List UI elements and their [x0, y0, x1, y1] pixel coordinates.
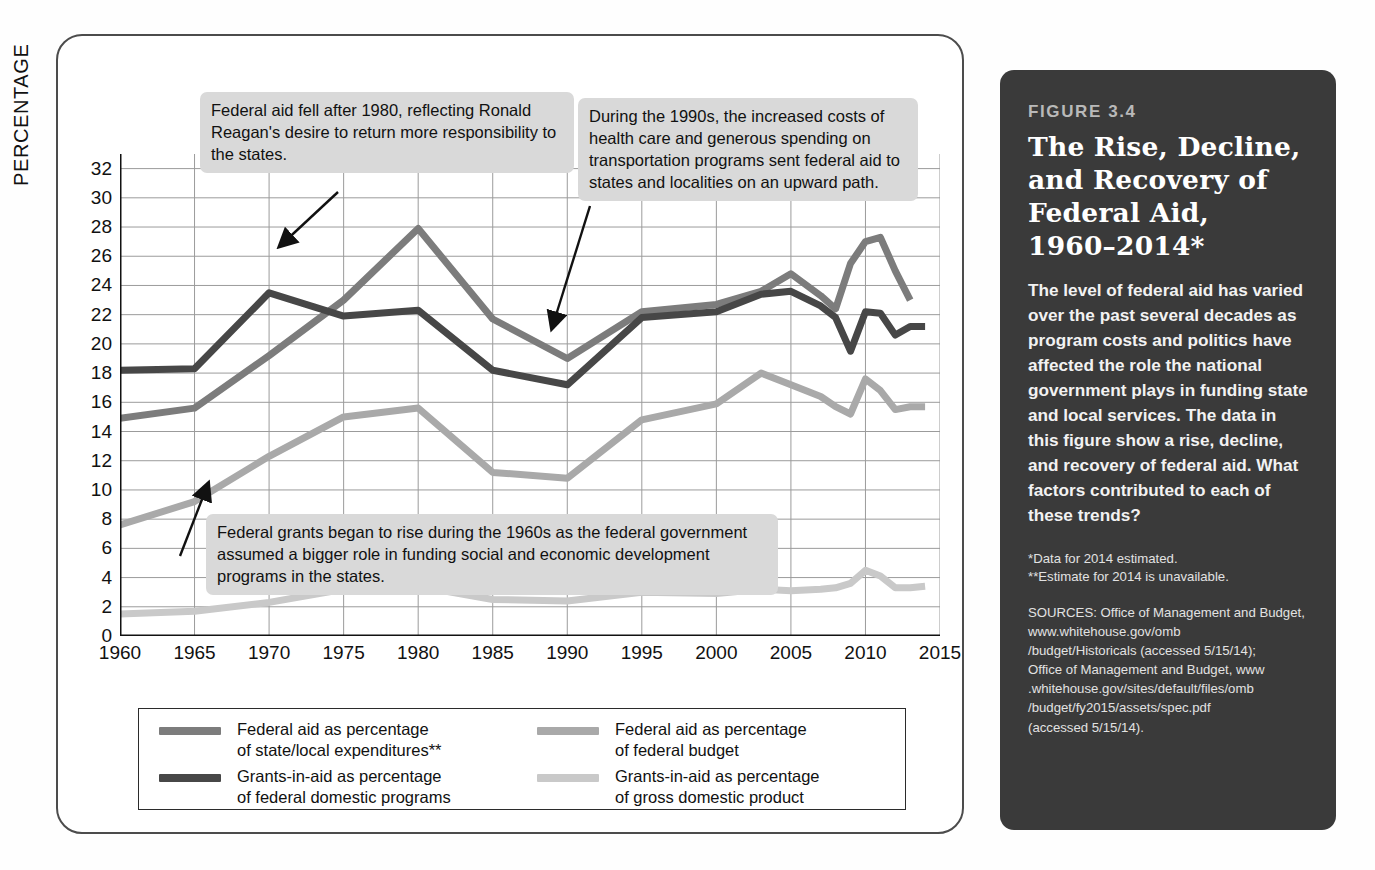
- legend-column-right: Federal aid as percentage of federal bud…: [517, 719, 901, 813]
- x-tick-label: 1980: [397, 642, 439, 664]
- chart-panel: PERCENTAGE 02468101214161820222426283032: [56, 34, 964, 834]
- y-tick-label: 24: [72, 275, 112, 294]
- y-tick-label: 2: [72, 597, 112, 616]
- legend-swatch: [159, 727, 221, 735]
- y-tick-label: 14: [72, 422, 112, 441]
- y-tick-label: 20: [72, 334, 112, 353]
- arrow-1960s: [180, 484, 208, 556]
- x-tick-label: 2000: [695, 642, 737, 664]
- chart-legend: Federal aid as percentage of state/local…: [138, 708, 906, 810]
- callout-reagan: Federal aid fell after 1980, reflecting …: [200, 92, 574, 173]
- legend-swatch: [537, 727, 599, 735]
- arrow-1990s: [552, 206, 590, 328]
- series-line: [120, 373, 925, 525]
- legend-label: Federal aid as percentage of federal bud…: [615, 719, 807, 762]
- legend-item: Federal aid as percentage of federal bud…: [517, 719, 901, 762]
- x-tick-label: 1985: [472, 642, 514, 664]
- x-tick-label: 1975: [322, 642, 364, 664]
- y-tick-label: 10: [72, 480, 112, 499]
- y-tick-label: 28: [72, 217, 112, 236]
- y-tick-label: 4: [72, 568, 112, 587]
- x-tick-label: 1965: [173, 642, 215, 664]
- callout-1960s: Federal grants began to rise during the …: [206, 514, 778, 595]
- footnote-two: **Estimate for 2014 is unavailable.: [1028, 568, 1308, 586]
- x-tick-label: 2010: [844, 642, 886, 664]
- y-tick-label: 30: [72, 188, 112, 207]
- x-axis-ticks: 1960196519701975198019851990199520002005…: [120, 642, 940, 672]
- x-tick-label: 2005: [770, 642, 812, 664]
- figure-description: The level of federal aid has varied over…: [1028, 278, 1308, 527]
- x-tick-label: 1970: [248, 642, 290, 664]
- x-tick-label: 1995: [621, 642, 663, 664]
- y-axis-title: PERCENTAGE: [10, 44, 33, 186]
- y-tick-label: 26: [72, 246, 112, 265]
- callout-1990s: During the 1990s, the increased costs of…: [578, 98, 918, 201]
- figure-number: FIGURE 3.4: [1028, 102, 1308, 122]
- figure-root: PERCENTAGE 02468101214161820222426283032: [0, 0, 1375, 870]
- sources-note: SOURCES: Office of Management and Budget…: [1028, 603, 1308, 737]
- y-tick-label: 18: [72, 363, 112, 382]
- x-tick-label: 1960: [99, 642, 141, 664]
- arrow-reagan: [280, 192, 338, 246]
- legend-label: Federal aid as percentage of state/local…: [237, 719, 442, 762]
- legend-column-left: Federal aid as percentage of state/local…: [139, 719, 523, 813]
- x-tick-label: 2015: [919, 642, 961, 664]
- caption-panel: FIGURE 3.4 The Rise, Decline, and Recove…: [1000, 70, 1336, 830]
- legend-item: Federal aid as percentage of state/local…: [139, 719, 523, 762]
- legend-swatch: [537, 774, 599, 782]
- y-tick-label: 6: [72, 538, 112, 557]
- legend-swatch: [159, 774, 221, 782]
- y-tick-label: 22: [72, 305, 112, 324]
- y-axis-ticks: 02468101214161820222426283032: [68, 154, 112, 636]
- x-tick-label: 1990: [546, 642, 588, 664]
- legend-item: Grants-in-aid as percentage of gross dom…: [517, 766, 901, 809]
- y-tick-label: 16: [72, 392, 112, 411]
- y-tick-label: 8: [72, 509, 112, 528]
- y-tick-label: 32: [72, 159, 112, 178]
- legend-label: Grants-in-aid as percentage of federal d…: [237, 766, 451, 809]
- legend-label: Grants-in-aid as percentage of gross dom…: [615, 766, 820, 809]
- legend-item: Grants-in-aid as percentage of federal d…: [139, 766, 523, 809]
- y-tick-label: 12: [72, 451, 112, 470]
- figure-title: The Rise, Decline, and Recovery of Feder…: [1028, 131, 1308, 262]
- footnote-one: *Data for 2014 estimated.: [1028, 550, 1308, 568]
